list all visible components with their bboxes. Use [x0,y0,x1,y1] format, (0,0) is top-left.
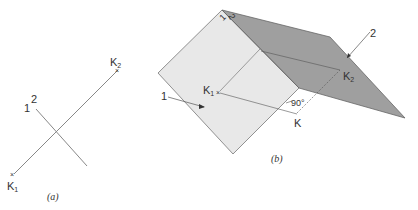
label-plane-2: 2 [370,27,376,39]
figure-b: 1 2 K1 × K2 K 90° 1 2 (b) [158,10,405,165]
label-line-1: 1 [24,102,30,114]
line-1-2 [36,109,87,166]
label-plane-1: 1 [161,90,167,102]
line-k1-k2 [14,70,118,174]
caption-b: (b) [271,153,283,165]
label-line-2: 2 [31,93,37,105]
label-k1: K1 [7,180,18,193]
k1-marker-icon: × [216,89,220,96]
label-k: K [294,117,302,129]
k1-marker-icon: × [10,171,14,178]
label-angle-90: 90° [291,98,305,108]
diagram-canvas: × × K1 K2 1 2 (a) 1 2 K1 × K2 K [0,0,418,210]
figure-a: × × K1 K2 1 2 (a) [7,56,121,203]
label-k2: K2 [110,56,121,69]
arrow-2-line [347,32,370,58]
caption-a: (a) [47,191,59,203]
